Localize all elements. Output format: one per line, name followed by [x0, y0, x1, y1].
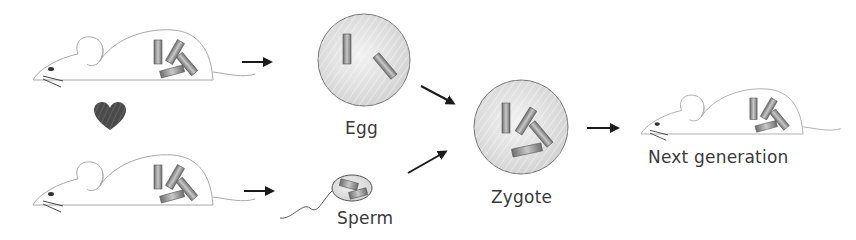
diagram-canvas: [0, 0, 856, 240]
egg-cell: [318, 14, 410, 106]
parent-mouse-bottom: [33, 155, 255, 212]
parent-mouse-top: [33, 30, 255, 87]
arrow-sperm-to-zygote: [408, 152, 445, 173]
arrow-egg-to-zygote: [421, 86, 453, 103]
zygote-cell: [474, 80, 568, 174]
heart-icon: [94, 102, 126, 130]
next-generation-label: Next generation: [648, 147, 788, 167]
zygote-label: Zygote: [491, 187, 552, 207]
egg-label: Egg: [345, 118, 378, 138]
sperm-label: Sperm: [337, 208, 393, 228]
next-generation-mouse: [641, 89, 841, 140]
